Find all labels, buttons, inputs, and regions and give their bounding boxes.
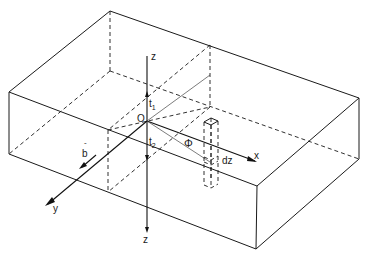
dz-label: dz xyxy=(222,155,233,166)
b-bar: - xyxy=(84,138,87,147)
y-label: y xyxy=(53,203,58,214)
b-label: b xyxy=(82,148,88,159)
section-plane xyxy=(108,45,210,192)
x-label: x xyxy=(254,150,259,161)
z-top-label: z xyxy=(151,51,156,62)
z-bottom-label: z xyxy=(143,234,148,245)
prism-element xyxy=(204,118,218,188)
origin-label: O xyxy=(137,113,145,124)
t2-label: t2 xyxy=(149,136,156,149)
phi-label: Φ xyxy=(184,137,193,149)
block-diagram: z z x y O t1 t2 Φ dz - b xyxy=(0,0,367,257)
block-outline xyxy=(9,11,359,249)
y-axis xyxy=(45,121,147,206)
t1-label: t1 xyxy=(149,98,156,111)
x-axis xyxy=(147,121,257,162)
